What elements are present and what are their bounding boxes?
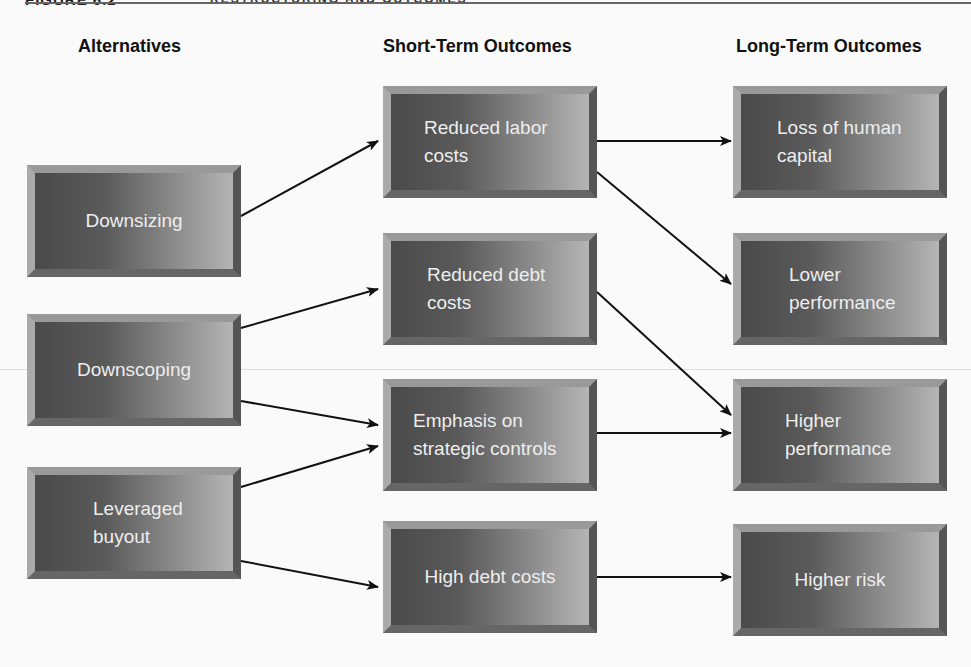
node-reduced-debt-costs: Reduced debt costs bbox=[383, 233, 597, 345]
arrow-lbo-to-high-debt bbox=[241, 561, 378, 587]
node-downsizing: Downsizing bbox=[27, 165, 241, 277]
arrow-lbo-to-strategic-controls bbox=[241, 446, 378, 487]
arrow-downscoping-to-reduced-debt bbox=[241, 289, 378, 328]
node-leveraged-buyout: Leveraged buyout bbox=[27, 467, 241, 579]
node-lower-performance: Lower performance bbox=[733, 233, 947, 345]
node-downscoping: Downscoping bbox=[27, 314, 241, 426]
arrow-reduced-labor-to-lower-performance bbox=[597, 172, 731, 284]
node-loss-of-human-capital: Loss of human capital bbox=[733, 86, 947, 198]
node-higher-risk: Higher risk bbox=[733, 524, 947, 636]
arrow-downscoping-to-strategic-controls bbox=[241, 401, 378, 425]
node-emphasis-strategic-controls: Emphasis on strategic controls bbox=[383, 379, 597, 491]
arrow-reduced-debt-to-higher-performance bbox=[597, 292, 731, 415]
node-reduced-labor-costs: Reduced labor costs bbox=[383, 86, 597, 198]
node-higher-performance: Higher performance bbox=[733, 379, 947, 491]
arrow-downsizing-to-reduced-labor bbox=[241, 141, 378, 216]
node-high-debt-costs: High debt costs bbox=[383, 521, 597, 633]
